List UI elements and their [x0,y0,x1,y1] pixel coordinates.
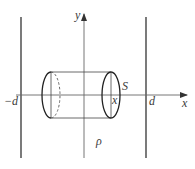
right-plane-label: d [149,94,156,108]
surface-area-label: S [122,79,128,93]
slab-gauss-diagram: y x −d d S x ρ [0,0,195,169]
charge-density-label: ρ [95,134,102,148]
cylinder-end-x-label: x [111,93,118,107]
x-axis-label: x [181,96,188,110]
left-plane-label: −d [4,94,19,108]
y-axis-label: y [74,8,81,22]
